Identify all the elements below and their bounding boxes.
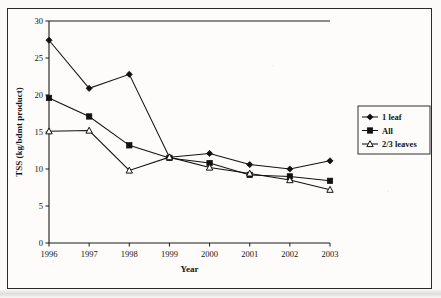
data-point bbox=[46, 95, 51, 100]
legend-label: All bbox=[382, 126, 394, 136]
data-point bbox=[327, 158, 333, 164]
data-point bbox=[247, 161, 253, 167]
legend: 1 leafAll2/3 leaves bbox=[358, 106, 430, 154]
data-point bbox=[327, 178, 332, 183]
series-1-leaf bbox=[46, 37, 333, 172]
x-tick-label: 1996 bbox=[41, 249, 58, 259]
y-tick-label: 15 bbox=[35, 127, 44, 137]
series-2-3-leaves bbox=[46, 127, 333, 192]
plot-root: 0510152025301996199719981999200020012002… bbox=[14, 16, 430, 274]
data-point bbox=[86, 114, 91, 119]
data-point bbox=[126, 71, 132, 77]
y-tick-label: 0 bbox=[39, 238, 43, 248]
y-axis-title: TSS (kg/bdmt product) bbox=[14, 87, 24, 176]
data-point bbox=[206, 150, 212, 156]
x-tick-label: 1999 bbox=[161, 249, 178, 259]
legend-label: 1 leaf bbox=[382, 112, 402, 122]
x-tick-label: 2001 bbox=[241, 249, 258, 259]
y-tick-label: 25 bbox=[35, 53, 44, 63]
legend-label: 2/3 leaves bbox=[382, 139, 417, 149]
x-axis-title: Year bbox=[181, 264, 199, 274]
x-tick-label: 1997 bbox=[81, 249, 98, 259]
legend-marker bbox=[367, 128, 372, 133]
y-tick-label: 5 bbox=[39, 201, 43, 211]
x-tick-label: 2003 bbox=[322, 249, 339, 259]
x-tick-label: 1998 bbox=[121, 249, 138, 259]
y-tick-label: 20 bbox=[35, 90, 44, 100]
series-line bbox=[49, 40, 330, 169]
x-tick-label: 2000 bbox=[201, 249, 218, 259]
data-point bbox=[287, 166, 293, 172]
data-point bbox=[127, 143, 132, 148]
x-tick-label: 2002 bbox=[281, 249, 298, 259]
y-tick-label: 30 bbox=[35, 16, 44, 26]
line-chart: 0510152025301996199719981999200020012002… bbox=[0, 0, 441, 298]
y-tick-label: 10 bbox=[35, 164, 44, 174]
